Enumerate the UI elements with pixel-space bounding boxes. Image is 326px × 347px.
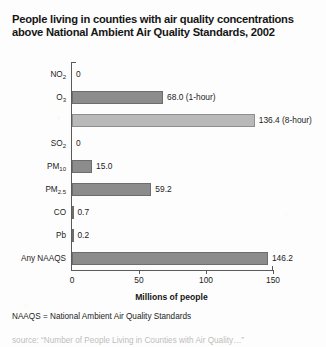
axis-top-cap (71, 62, 76, 63)
chart-title: People living in counties with air quali… (12, 13, 314, 40)
value-label-so2: 0 (76, 139, 81, 147)
value-label-pb: 0.2 (77, 231, 89, 239)
bar-pm2-5 (72, 183, 151, 197)
value-label-no2: 0 (76, 70, 81, 78)
value-label-pm10: 15.0 (96, 162, 112, 170)
x-tick-label-150: 150 (266, 275, 280, 285)
value-label-o3: 68.0 (1-hour) (167, 93, 215, 101)
bar-o3 (72, 91, 163, 105)
category-label-pb: Pb (56, 232, 66, 240)
x-tick-label-0: 0 (70, 275, 75, 285)
source-note: source: “Number of People Living in Coun… (12, 336, 312, 347)
x-tick-label-100: 100 (199, 275, 213, 285)
x-tick-150 (273, 270, 274, 274)
category-label-pm10: PM10 (47, 163, 66, 171)
value-label-co: 0.7 (77, 208, 89, 216)
x-axis-title: Millions of people (71, 292, 272, 302)
bar-o3 (72, 114, 255, 128)
x-tick-50 (139, 270, 140, 274)
x-tick-100 (206, 270, 207, 274)
bar-co (72, 206, 74, 220)
category-label-no2: NO2 (50, 71, 66, 79)
category-label-pm2-5: PM2.5 (45, 186, 66, 194)
category-label-co: CO (54, 209, 66, 217)
value-label-pm2-5: 59.2 (155, 185, 171, 193)
category-label-o3: O3 (56, 94, 66, 102)
bar-pm10 (72, 160, 92, 174)
x-axis-line (71, 270, 273, 271)
bar-pb (72, 229, 74, 243)
category-label-so2: SO2 (51, 140, 66, 148)
naaqs-footnote: NAAQS = National Ambient Air Quality Sta… (12, 312, 191, 321)
value-label-o3: 136.4 (8-hour) (259, 116, 312, 124)
category-label-any-naaqs: Any NAAQS (21, 255, 66, 263)
x-tick-label-50: 50 (134, 275, 143, 285)
plot-area: NO20O368.0 (1-hour)136.4 (8-hour)SO20PM1… (71, 63, 273, 270)
value-label-any-naaqs: 146.2 (272, 254, 293, 262)
bar-any-naaqs (72, 252, 268, 266)
